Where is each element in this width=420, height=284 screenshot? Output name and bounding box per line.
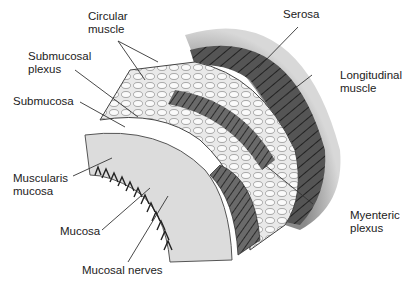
mucosa-layer bbox=[85, 133, 232, 262]
label-submucosa: Submucosa bbox=[13, 95, 74, 108]
label-circular-muscle: Circular muscle bbox=[88, 10, 128, 36]
label-mucosal-nerves: Mucosal nerves bbox=[82, 264, 163, 277]
label-submucosal-plexus: Submucosal plexus bbox=[28, 50, 91, 76]
label-myenteric-plexus: Myenteric plexus bbox=[350, 209, 400, 235]
label-mucosa: Mucosa bbox=[60, 225, 100, 238]
label-serosa: Serosa bbox=[283, 8, 319, 21]
label-longitudinal-muscle: Longitudinal muscle bbox=[340, 69, 402, 95]
label-muscularis-mucosa: Muscularis mucosa bbox=[13, 172, 68, 198]
gut-wall-illustration bbox=[0, 0, 420, 284]
